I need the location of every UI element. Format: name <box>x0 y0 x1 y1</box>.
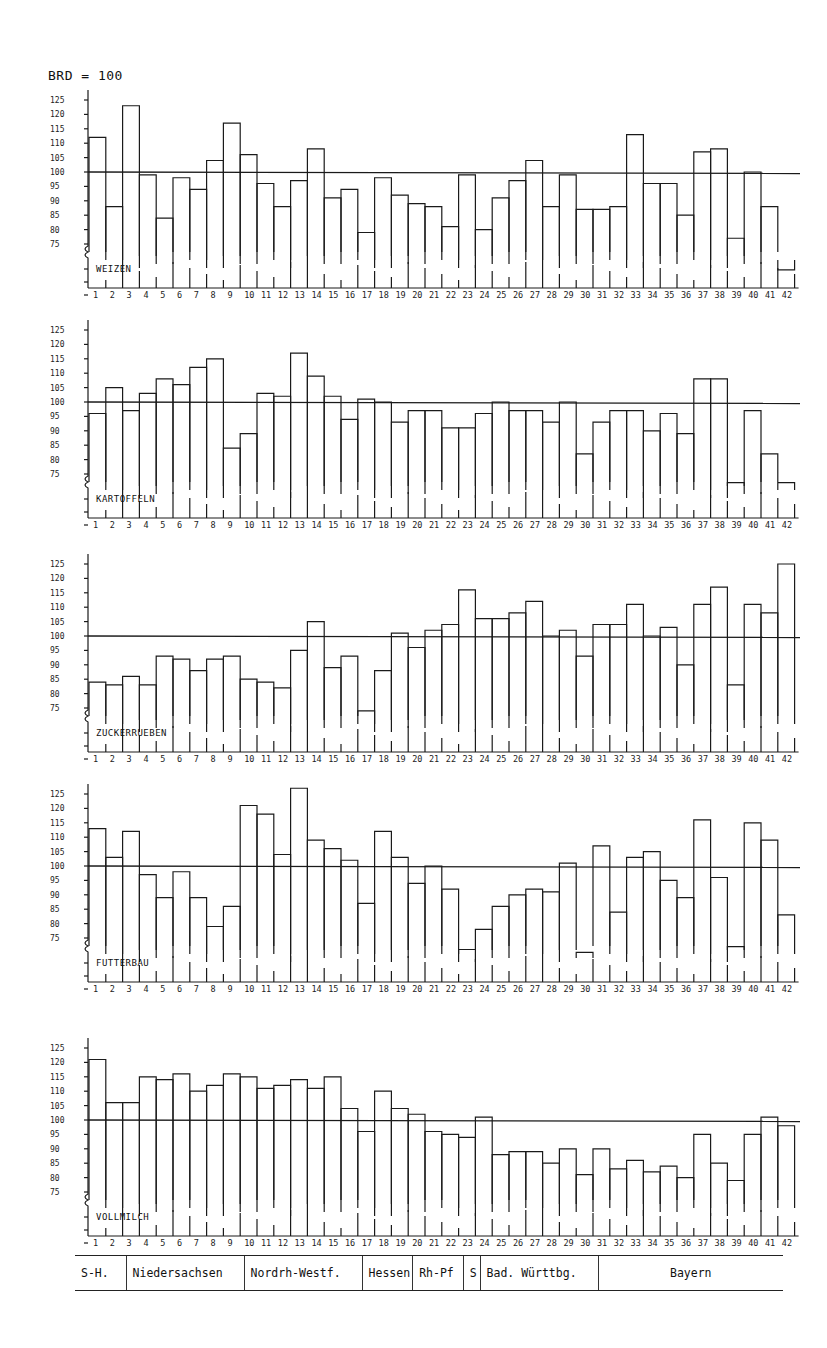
x-tick-label: 21 <box>429 520 439 530</box>
bar <box>375 178 392 268</box>
bar <box>123 106 140 268</box>
x-tick-label: 22 <box>446 520 456 530</box>
bar <box>341 189 358 252</box>
chart-futterbau: 1251201151101051009590858075123456789101… <box>40 782 800 1004</box>
x-tick-label: 4 <box>143 984 148 994</box>
x-tick-label: 17 <box>362 1238 372 1248</box>
x-tick-label: 10 <box>244 290 254 300</box>
y-tick-label: 115 <box>50 819 65 828</box>
y-tick-label: 90 <box>50 427 60 436</box>
x-tick-label: 22 <box>446 290 456 300</box>
x-tick-label: 5 <box>160 1238 165 1248</box>
y-tick-label: 110 <box>50 603 65 612</box>
bar <box>139 875 156 950</box>
bar <box>492 198 509 264</box>
x-tick-label: 34 <box>647 754 657 764</box>
x-tick-label: 7 <box>194 1238 199 1248</box>
x-tick-label: 2 <box>110 754 115 764</box>
bar <box>358 711 375 724</box>
bar <box>677 215 694 252</box>
x-tick-label: 8 <box>211 290 216 300</box>
region-cell: Bayern <box>598 1256 783 1290</box>
x-tick-label: 38 <box>715 290 725 300</box>
bar <box>341 656 358 716</box>
bar <box>492 402 509 494</box>
bar <box>391 633 408 720</box>
bar <box>761 840 778 946</box>
chart-weizen: 1251201151101051009590858075123456789101… <box>40 88 800 310</box>
bar <box>240 806 257 958</box>
x-tick-label: 31 <box>597 290 607 300</box>
bar <box>291 181 308 268</box>
y-tick-label: 95 <box>50 1130 60 1139</box>
x-tick-label: 39 <box>731 1238 741 1248</box>
x-tick-label: 40 <box>748 984 758 994</box>
region-cell: Rh-Pf <box>412 1256 463 1290</box>
x-tick-label: 21 <box>429 290 439 300</box>
bar <box>543 422 560 498</box>
bar <box>643 636 660 720</box>
bar <box>459 175 476 268</box>
x-tick-label: 17 <box>362 290 372 300</box>
x-tick-label: 35 <box>664 1238 674 1248</box>
x-tick-label: 27 <box>530 520 540 530</box>
y-tick-label: 105 <box>50 1102 65 1111</box>
bar <box>358 399 375 490</box>
region-cell: Hessen <box>362 1256 413 1290</box>
x-tick-label: 35 <box>664 290 674 300</box>
x-tick-label: 19 <box>395 520 405 530</box>
bar <box>89 1060 106 1200</box>
x-tick-label: 11 <box>261 290 271 300</box>
bar <box>375 402 392 498</box>
y-tick-label: 100 <box>50 1116 65 1125</box>
bar <box>173 385 190 482</box>
x-tick-label: 30 <box>580 754 590 764</box>
bar <box>559 630 576 720</box>
bar <box>274 207 291 260</box>
bar <box>761 613 778 716</box>
bar <box>442 889 459 954</box>
x-tick-label: 36 <box>681 520 691 530</box>
x-tick-label: 15 <box>328 1238 338 1248</box>
x-tick-label: 29 <box>563 290 573 300</box>
x-tick-label: 13 <box>295 520 305 530</box>
x-tick-label: 25 <box>496 290 506 300</box>
index-base-title: BRD = 100 <box>48 68 123 83</box>
x-tick-label: 19 <box>395 984 405 994</box>
x-tick-label: 13 <box>295 754 305 764</box>
bar <box>156 379 173 494</box>
x-tick-label: 9 <box>227 520 232 530</box>
bar <box>744 823 761 958</box>
x-tick-label: 3 <box>127 290 132 300</box>
bar <box>139 393 156 486</box>
y-tick-label: 105 <box>50 384 65 393</box>
bar <box>257 184 274 252</box>
bar <box>190 898 207 954</box>
x-tick-label: 24 <box>479 290 489 300</box>
bar <box>643 184 660 256</box>
bar <box>324 198 341 264</box>
bar <box>207 160 224 268</box>
x-tick-label: 14 <box>311 520 321 530</box>
bar <box>106 207 123 260</box>
bar <box>240 1077 257 1212</box>
x-tick-label: 40 <box>748 754 758 764</box>
bar <box>106 685 123 724</box>
bar <box>492 1155 509 1212</box>
x-tick-label: 10 <box>244 520 254 530</box>
x-tick-label: 26 <box>513 290 523 300</box>
bar <box>324 668 341 728</box>
x-tick-label: 13 <box>295 1238 305 1248</box>
x-tick-label: 6 <box>177 520 182 530</box>
chart-kartoffeln: 1251201151101051009590858075123456789101… <box>40 318 800 540</box>
bar <box>89 137 106 252</box>
x-tick-label: 20 <box>412 984 422 994</box>
bar <box>610 411 627 490</box>
x-tick-label: 23 <box>463 520 473 530</box>
x-tick-label: 4 <box>143 520 148 530</box>
x-tick-label: 40 <box>748 520 758 530</box>
bar <box>509 895 526 946</box>
bar <box>408 1114 425 1212</box>
x-tick-label: 23 <box>463 290 473 300</box>
bar <box>761 207 778 252</box>
